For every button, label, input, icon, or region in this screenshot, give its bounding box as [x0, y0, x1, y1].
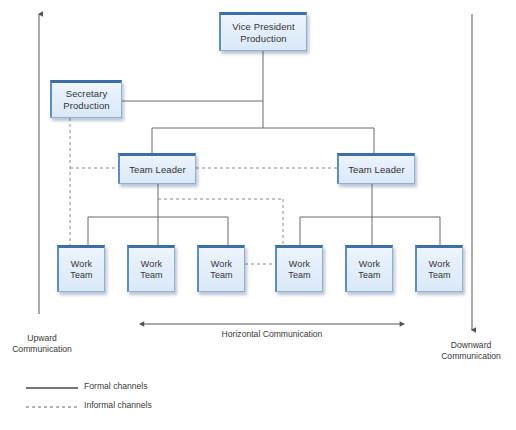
node-work-team-4-label: Work Team	[286, 259, 312, 281]
node-work-team-4[interactable]: Work Team	[275, 245, 323, 292]
connector-layer	[0, 0, 516, 430]
legend-formal-label: Formal channels	[84, 381, 148, 391]
node-work-team-2[interactable]: Work Team	[127, 245, 175, 292]
node-team-leader-right[interactable]: Team Leader	[337, 153, 415, 184]
node-work-team-1-label: Work Team	[68, 259, 94, 281]
node-work-team-2-label: Work Team	[138, 259, 164, 281]
node-work-team-1[interactable]: Work Team	[57, 245, 105, 292]
node-work-team-3-label: Work Team	[208, 259, 234, 281]
node-team-leader-right-label: Team Leader	[346, 164, 407, 176]
node-work-team-6-label: Work Team	[426, 259, 452, 281]
formal-connectors	[88, 51, 440, 245]
label-downward-communication: Downward Communication	[426, 340, 516, 362]
legend-informal-label: Informal channels	[84, 400, 152, 410]
node-secretary[interactable]: Secretary Production	[50, 80, 122, 118]
node-work-team-5[interactable]: Work Team	[345, 245, 393, 292]
node-team-leader-left-label: Team Leader	[127, 164, 188, 176]
node-work-team-5-label: Work Team	[356, 259, 382, 281]
informal-connectors	[70, 118, 337, 264]
org-communication-chart: Vice President Production Secretary Prod…	[0, 0, 516, 430]
node-work-team-6[interactable]: Work Team	[415, 245, 463, 292]
label-horizontal-communication: Horizontal Communication	[182, 329, 362, 339]
node-team-leader-left[interactable]: Team Leader	[118, 153, 196, 184]
node-work-team-3[interactable]: Work Team	[197, 245, 245, 292]
node-secretary-label: Secretary Production	[61, 88, 111, 111]
node-vice-president-label: Vice President Production	[230, 21, 296, 44]
node-vice-president[interactable]: Vice President Production	[219, 12, 307, 51]
label-upward-communication: Upward Communication	[0, 333, 84, 355]
